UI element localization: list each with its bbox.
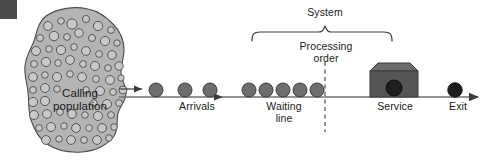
exit-entity-dot [448,83,462,97]
waiting-line-entities [242,83,324,97]
entity-dot [203,83,217,97]
exit-arrow [469,93,479,101]
entity-dot [293,83,307,97]
system-bracket [252,26,392,41]
diagram-svg [0,0,497,165]
entity-dot [259,83,273,97]
waiting-line-label: Waiting line [253,101,315,125]
figure-canvas: Calling population Arrivals System Proce… [0,0,497,165]
service-facility-icon [370,63,418,97]
system-label: System [293,7,357,19]
service-box-port [386,80,402,96]
service-label: Service [364,101,426,113]
entity-dot [310,83,324,97]
entity-dot [149,83,163,97]
arrivals-label: Arrivals [160,101,234,113]
entity-dot [178,83,192,97]
exit-label: Exit [436,101,480,113]
entity-dot [276,83,290,97]
calling-population-group [25,8,127,153]
entity-dot [242,83,256,97]
processing-order-label: Processing order [288,41,364,65]
calling-population-label: Calling population [42,87,118,113]
service-box-top [370,63,418,71]
arrival-entities [149,83,217,97]
